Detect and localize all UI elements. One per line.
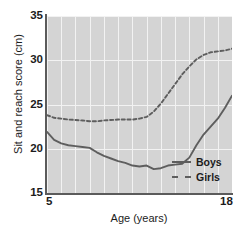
legend-label-girls: Girls [196, 172, 220, 183]
chart-figure: 1520253035 518 Sit and reach score (cm) … [0, 0, 245, 233]
y-axis-title: Sit and reach score (cm) [12, 14, 24, 174]
x-tick-label: 18 [220, 196, 233, 208]
series-line-girls [47, 49, 232, 122]
x-axis-line [45, 193, 233, 195]
legend-swatch-boys-icon [172, 161, 191, 163]
chart-legend: Boys Girls [172, 156, 222, 183]
legend-item-girls: Girls [172, 171, 222, 183]
y-tick-label: 25 [5, 99, 43, 111]
y-tick-label: 15 [5, 187, 43, 199]
y-tick-label: 20 [5, 143, 43, 155]
y-tick-label: 35 [5, 10, 43, 22]
x-axis-title: Age (years) [45, 212, 233, 224]
y-axis-line [45, 14, 47, 195]
legend-item-boys: Boys [172, 156, 222, 168]
legend-swatch-girls-icon [172, 176, 191, 178]
legend-label-boys: Boys [196, 157, 222, 168]
x-tick-label: 5 [46, 196, 52, 208]
y-tick-label: 30 [5, 54, 43, 66]
